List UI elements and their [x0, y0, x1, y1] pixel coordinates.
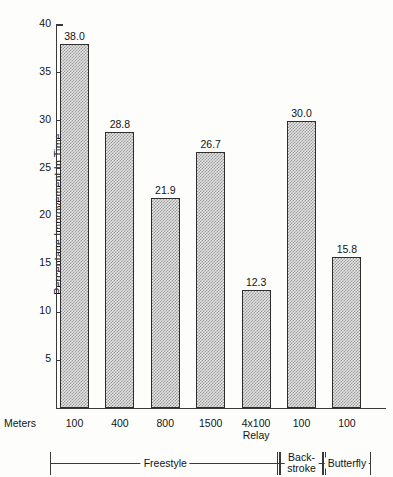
bar: [332, 257, 361, 408]
category-label: 100: [318, 417, 375, 429]
bracket-cap-left: [50, 452, 51, 475]
bar: [105, 132, 134, 408]
bar: [242, 290, 271, 408]
bar: [151, 198, 180, 408]
bar-value-label: 26.7: [188, 138, 233, 150]
bar-value-label: 38.0: [52, 30, 97, 42]
bracket-group-name-line2: stroke: [287, 463, 316, 474]
category-label-line1: 100: [318, 417, 375, 429]
group-bracket: Freestyle: [50, 452, 281, 474]
bracket-cap-left: [277, 452, 278, 475]
bracket-group-name: Back-stroke: [284, 452, 319, 474]
bar-value-label: 21.9: [143, 184, 188, 196]
bar: [196, 152, 225, 408]
bracket-group-name: Freestyle: [141, 458, 190, 469]
bar: [287, 121, 316, 408]
meters-axis-label: Meters: [4, 417, 36, 429]
category-label-line2: Relay: [228, 429, 285, 441]
group-bracket: Back-stroke: [277, 452, 326, 474]
bar-value-label: 28.8: [97, 118, 142, 130]
plot-area: 38.028.821.926.712.330.015.8: [0, 0, 393, 477]
bar-chart-figure: Percentage Improvement In Time 510152025…: [0, 0, 393, 477]
group-bracket: Butterfly: [322, 452, 371, 474]
bracket-cap-right: [370, 452, 371, 475]
bar-value-label: 12.3: [234, 276, 279, 288]
bracket-cap-left: [322, 452, 323, 475]
bracket-group-name: Butterfly: [325, 458, 370, 469]
bar-value-label: 15.8: [324, 243, 369, 255]
bar: [60, 44, 89, 408]
bar-value-label: 30.0: [279, 107, 324, 119]
